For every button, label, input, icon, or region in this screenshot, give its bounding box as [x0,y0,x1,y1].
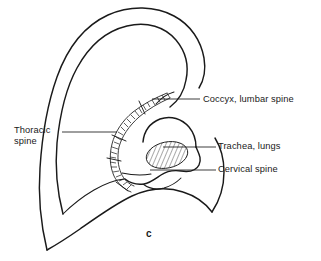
antitragus-notch-path [143,178,181,189]
spine-segment-ticks [107,101,145,191]
figure-caption-letter: c [146,228,152,239]
spine-ladder-group [107,93,170,192]
ear-reflexology-figure: Coccyx, lumbar spine Thoracicspine Trach… [0,0,321,261]
concha-floor-path [122,173,151,175]
label-coccyx-lumbar-spine: Coccyx, lumbar spine [203,94,294,105]
helix-inner-edge-path [56,24,187,214]
lobe-inner-contour-path [63,179,124,214]
label-thoracic-line-2: spine [14,136,37,146]
label-thoracic-spine: Thoracicspine [14,125,50,146]
trachea-lungs-hatched-oval [144,138,190,172]
label-cervical-spine: Cervical spine [218,164,278,175]
ear-lobe-outline-path [47,189,212,250]
label-thoracic-line-1: Thoracic [14,125,50,135]
label-trachea-lungs: Trachea, lungs [218,141,280,152]
